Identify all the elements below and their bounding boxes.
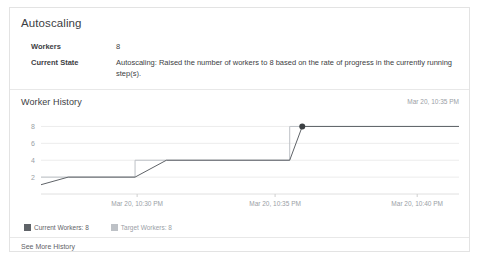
- detail-value-current-state: Autoscaling: Raised the number of worker…: [116, 57, 461, 79]
- page-root: Autoscaling Workers 8 Current State Auto…: [0, 0, 478, 258]
- worker-history-title: Worker History: [21, 97, 82, 107]
- svg-text:4: 4: [31, 157, 35, 164]
- autoscaling-card: Autoscaling Workers 8 Current State Auto…: [9, 7, 470, 252]
- page-title: Autoscaling: [21, 17, 82, 29]
- chart-canvas: 2468Mar 20, 10:30 PMMar 20, 10:35 PMMar …: [21, 112, 461, 212]
- detail-label-workers: Workers: [21, 41, 116, 52]
- chart-legend: Current Workers: 8 Target Workers: 8: [24, 224, 194, 231]
- worker-history-chart[interactable]: 2468Mar 20, 10:30 PMMar 20, 10:35 PMMar …: [21, 112, 461, 212]
- svg-text:Mar 20, 10:30 PM: Mar 20, 10:30 PM: [111, 200, 163, 207]
- footer-divider: [10, 237, 469, 238]
- see-more-history-link[interactable]: See More History: [21, 243, 75, 250]
- table-row: Current State Autoscaling: Raised the nu…: [21, 57, 461, 79]
- detail-value-workers: 8: [116, 41, 461, 52]
- svg-text:2: 2: [31, 174, 35, 181]
- legend-label-current-workers: Current Workers: 8: [34, 224, 89, 231]
- legend-item-current-workers[interactable]: Current Workers: 8: [24, 224, 89, 231]
- legend-item-target-workers[interactable]: Target Workers: 8: [111, 224, 172, 231]
- legend-swatch-icon: [111, 224, 118, 231]
- detail-label-current-state: Current State: [21, 57, 116, 68]
- legend-label-target-workers: Target Workers: 8: [121, 224, 172, 231]
- svg-text:Mar 20, 10:35 PM: Mar 20, 10:35 PM: [249, 200, 301, 207]
- svg-text:6: 6: [31, 140, 35, 147]
- worker-history-timestamp: Mar 20, 10:35 PM: [407, 98, 459, 105]
- legend-swatch-icon: [24, 224, 31, 231]
- table-row: Workers 8: [21, 41, 461, 52]
- section-divider: [10, 89, 469, 90]
- details-table: Workers 8 Current State Autoscaling: Rai…: [21, 41, 461, 84]
- svg-text:8: 8: [31, 123, 35, 130]
- svg-text:Mar 20, 10:40 PM: Mar 20, 10:40 PM: [391, 200, 443, 207]
